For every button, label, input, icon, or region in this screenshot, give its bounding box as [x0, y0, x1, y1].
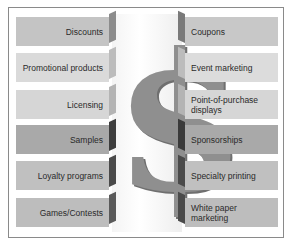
left-box-loyalty-programs: Loyalty programs: [16, 161, 116, 190]
right-box-event-marketing: Event marketing: [178, 53, 278, 82]
right-box-specialty-printing: Specialty printing: [178, 161, 278, 190]
box-label: Point-of-purchase displays: [191, 95, 266, 115]
left-box-promotional-products: Promotional products: [16, 53, 116, 82]
box-label: Sponsorships: [191, 135, 243, 145]
right-box-sponsorships: Sponsorships: [178, 125, 278, 154]
box-label: Discounts: [66, 27, 103, 37]
box-label: Specialty printing: [191, 171, 256, 181]
left-box-licensing: Licensing: [16, 90, 116, 119]
box-label: Event marketing: [191, 63, 252, 73]
dollar-sign-icon: $: [114, 18, 180, 228]
box-label: Promotional products: [23, 63, 103, 73]
box-label: Licensing: [67, 100, 103, 110]
box-label: Loyalty programs: [38, 171, 103, 181]
box-label: Coupons: [191, 27, 225, 37]
left-box-samples: Samples: [16, 125, 116, 154]
right-box-coupons: Coupons: [178, 17, 278, 46]
box-label: Games/Contests: [40, 208, 103, 218]
box-label: Samples: [70, 135, 103, 145]
left-box-discounts: Discounts: [16, 17, 116, 46]
box-label: White paper marketing: [191, 203, 272, 223]
left-box-games-contests: Games/Contests: [16, 198, 116, 227]
right-box-point-of-purchase-displays: Point-of-purchase displays: [178, 90, 278, 119]
right-box-white-paper-marketing: White paper marketing: [178, 198, 278, 227]
